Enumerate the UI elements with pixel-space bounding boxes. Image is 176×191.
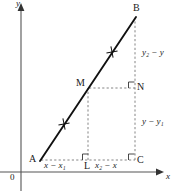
point-label-n: N	[137, 82, 144, 92]
origin-label: 0	[10, 173, 15, 182]
y-axis	[18, 3, 25, 191]
segment-ab	[40, 17, 136, 161]
geometry-diagram: B M N A L C x − x₁ x₂ − x y₂ − y y − y₁ …	[0, 0, 176, 191]
right-angle-n	[129, 82, 135, 88]
label-run-lc: x₂ − x	[95, 161, 117, 170]
point-label-b: B	[133, 3, 140, 13]
y-axis-label: y	[16, 0, 20, 8]
point-label-c: C	[137, 155, 144, 165]
x-axis-label: x	[166, 172, 170, 181]
point-label-a: A	[29, 154, 36, 164]
label-rise-lower: y − y₁	[142, 117, 164, 126]
right-angle-c	[129, 154, 135, 160]
label-run-al: x − x₁	[44, 161, 66, 170]
point-label-l: L	[84, 161, 90, 171]
x-axis	[0, 169, 164, 176]
point-label-m: M	[76, 78, 85, 88]
label-rise-upper: y₂ − y	[142, 48, 164, 57]
